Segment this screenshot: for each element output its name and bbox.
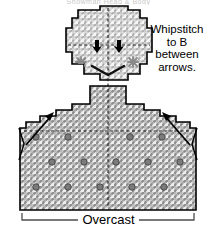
diagram-canvas: Snowman Head & Body bbox=[0, 0, 217, 234]
overcast-label-text: Overcast bbox=[78, 212, 138, 227]
body-dot bbox=[127, 134, 133, 140]
overcast-label: Overcast bbox=[0, 213, 217, 227]
body-piece bbox=[20, 86, 196, 210]
body-dot bbox=[33, 184, 39, 190]
body-dot bbox=[97, 184, 103, 190]
note-line-2: to B bbox=[139, 36, 215, 49]
body-dot bbox=[177, 159, 183, 165]
body-dot bbox=[129, 184, 135, 190]
body-dot bbox=[49, 159, 55, 165]
body-outline bbox=[20, 86, 196, 210]
whipstitch-note: Whipstitch to B between arrows. bbox=[139, 23, 215, 73]
cheek-star-left bbox=[76, 57, 86, 67]
body-dot bbox=[113, 159, 119, 165]
body-dot bbox=[161, 184, 167, 190]
body-dot bbox=[65, 134, 71, 140]
body-dot bbox=[145, 159, 151, 165]
body-dot bbox=[81, 159, 87, 165]
note-line-4: arrows. bbox=[139, 61, 215, 74]
note-line-3: between bbox=[139, 48, 215, 61]
note-line-1: Whipstitch bbox=[139, 23, 215, 36]
body-dot bbox=[159, 134, 165, 140]
cheek-star-right bbox=[128, 57, 138, 67]
body-dot bbox=[65, 184, 71, 190]
